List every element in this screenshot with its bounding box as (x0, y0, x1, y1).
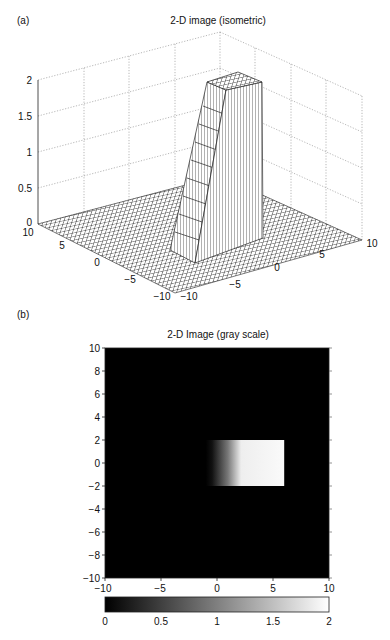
svg-text:2: 2 (326, 616, 332, 627)
panel-a-title: 2-D image (isometric) (170, 15, 266, 26)
svg-text:5: 5 (319, 249, 325, 260)
colorbar (105, 597, 329, 612)
svg-text:−2: −2 (89, 481, 101, 492)
svg-text:10: 10 (366, 238, 378, 249)
svg-text:−6: −6 (89, 527, 101, 538)
colorbar-ticks: 0 0.5 1 1.5 2 (102, 616, 332, 627)
svg-text:0: 0 (102, 616, 108, 627)
raised-block (170, 72, 263, 263)
svg-text:0: 0 (214, 583, 220, 594)
svg-text:1.5: 1.5 (18, 111, 32, 122)
svg-text:2: 2 (94, 435, 100, 446)
svg-text:10: 10 (323, 583, 335, 594)
svg-text:0.5: 0.5 (154, 616, 168, 627)
panel-b-title: 2-D Image (gray scale) (167, 329, 269, 340)
svg-text:4: 4 (94, 412, 100, 423)
svg-text:5: 5 (59, 240, 65, 251)
panel-b-label: (b) (17, 309, 29, 320)
svg-text:6: 6 (94, 389, 100, 400)
svg-text:−10: −10 (154, 291, 171, 302)
svg-text:10: 10 (89, 343, 101, 354)
panel-a-label: (a) (17, 15, 29, 26)
svg-text:0: 0 (94, 458, 100, 469)
svg-text:5: 5 (270, 583, 276, 594)
bright-region (206, 440, 284, 486)
svg-text:0.5: 0.5 (18, 183, 32, 194)
z-ticks: 2 1.5 1 0.5 0 (18, 75, 32, 228)
svg-text:−5: −5 (229, 279, 241, 290)
svg-text:−10: −10 (95, 583, 112, 594)
svg-text:−5: −5 (154, 583, 166, 594)
panel-a: (a) 2-D image (isometric) 2 1.5 1 0.5 0 (17, 15, 378, 302)
panel-b: (b) 2-D Image (gray scale) 10 8 6 4 2 0 … (17, 309, 335, 627)
svg-text:1.5: 1.5 (266, 616, 280, 627)
svg-text:10: 10 (22, 227, 34, 238)
svg-text:2: 2 (26, 75, 32, 86)
svg-text:−8: −8 (89, 550, 101, 561)
svg-text:8: 8 (94, 366, 100, 377)
svg-text:1: 1 (214, 616, 220, 627)
svg-text:0: 0 (274, 262, 280, 273)
y-ticks: 10 8 6 4 2 0 −2 −4 −6 −8 −10 (83, 343, 100, 584)
svg-text:−5: −5 (124, 274, 136, 285)
svg-text:1: 1 (26, 147, 32, 158)
svg-text:−4: −4 (89, 504, 101, 515)
svg-text:−10: −10 (181, 291, 198, 302)
figure: (a) 2-D image (isometric) 2 1.5 1 0.5 0 (0, 0, 390, 640)
x-ticks: −10 −5 0 5 10 (95, 583, 335, 594)
svg-text:0: 0 (94, 257, 100, 268)
